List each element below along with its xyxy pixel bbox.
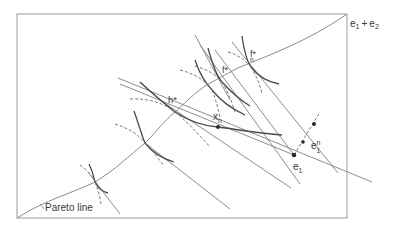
dashed-curve-hstar-down — [175, 112, 210, 147]
label-f-star: f* — [222, 65, 229, 75]
label-e1: e1 — [293, 161, 303, 174]
dashed-curve-5b — [251, 67, 262, 94]
dashed-curve-3b — [195, 66, 222, 82]
indifference-curve-1 — [89, 164, 108, 193]
point-xn — [216, 125, 220, 129]
dashed-curve-2a — [115, 124, 145, 143]
label-corner: e1+e2 — [350, 18, 379, 30]
dashed-curve-3a — [180, 70, 212, 90]
label-e1n: e1n — [311, 139, 321, 154]
point-upper — [312, 122, 316, 126]
point-e1 — [292, 153, 297, 158]
price-line-low — [145, 143, 230, 209]
label-pareto-line: Pareto line — [45, 202, 93, 213]
indifference-curve-5 — [242, 36, 279, 84]
edgeworth-box-diagram: e1+e2 Pareto line h* f* f*n xn e1 e1n — [0, 0, 398, 231]
point-e1n — [301, 140, 305, 144]
label-h-star: h* — [168, 94, 177, 105]
